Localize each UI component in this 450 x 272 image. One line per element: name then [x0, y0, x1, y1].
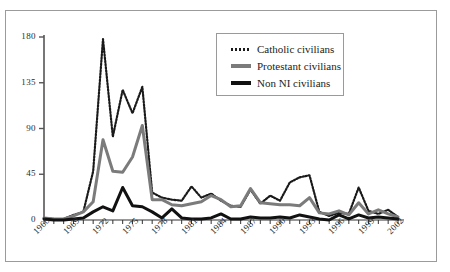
legend-swatch-gray-icon	[231, 64, 251, 68]
y-tick-label-135: 135	[8, 77, 36, 87]
legend-entry-catholic-civilians: Catholic civilians	[231, 42, 334, 56]
chart-frame: 18013590450 1966196919721975197819811984…	[5, 10, 437, 262]
legend-entry-non-ni-civilians: Non NI civilians	[231, 76, 330, 90]
y-tick-label-45: 45	[8, 168, 36, 178]
legend-label-protestant-civilians: Protestant civilians	[257, 61, 341, 72]
legend-label-catholic-civilians: Catholic civilians	[257, 44, 334, 55]
legend-swatch-dotted-icon	[231, 48, 251, 51]
legend-label-non-ni-civilians: Non NI civilians	[257, 78, 330, 89]
series-line-protestant-civilians	[44, 125, 398, 219]
chart-legend: Catholic civilians Protestant civilians …	[216, 33, 344, 96]
legend-entry-protestant-civilians: Protestant civilians	[231, 59, 341, 73]
y-tick-label-90: 90	[8, 123, 36, 133]
y-tick-label-180: 180	[8, 31, 36, 41]
legend-swatch-black-icon	[231, 81, 251, 85]
chart-figure: 18013590450 1966196919721975197819811984…	[0, 0, 450, 272]
y-tick-label-0: 0	[8, 214, 36, 224]
